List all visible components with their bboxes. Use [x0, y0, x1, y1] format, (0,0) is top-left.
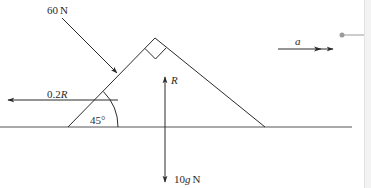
- normal-force-label: R: [171, 75, 178, 86]
- acceleration-label: a: [295, 36, 301, 47]
- applied-force-arrow: [62, 18, 117, 73]
- side-panel-edge: [364, 0, 371, 188]
- friction-force-label: 0.2R: [47, 89, 67, 100]
- weight-force-unit: N: [193, 173, 201, 185]
- friction-force-value: 0.2: [47, 88, 61, 100]
- applied-force-unit: N: [60, 4, 68, 16]
- right-angle-marker: [145, 48, 166, 59]
- applied-force-label: 60N: [47, 5, 68, 16]
- angle-label: 45°: [90, 115, 105, 126]
- applied-force-value: 60: [47, 4, 58, 16]
- weight-force-symbol: g: [185, 173, 191, 185]
- friction-force-symbol: R: [61, 88, 68, 100]
- angle-arc: [103, 92, 118, 127]
- weight-force-label: 10gN: [174, 174, 200, 185]
- weight-force-value: 10: [174, 173, 185, 185]
